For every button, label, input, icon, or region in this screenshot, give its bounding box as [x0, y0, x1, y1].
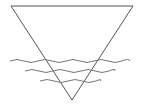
water-table-symbol — [0, 0, 141, 106]
wave-line-3 — [40, 80, 101, 83]
water-table-icon — [0, 0, 141, 106]
inverted-triangle — [11, 6, 133, 100]
wave-line-1 — [10, 60, 130, 63]
wave-line-2 — [25, 70, 115, 73]
